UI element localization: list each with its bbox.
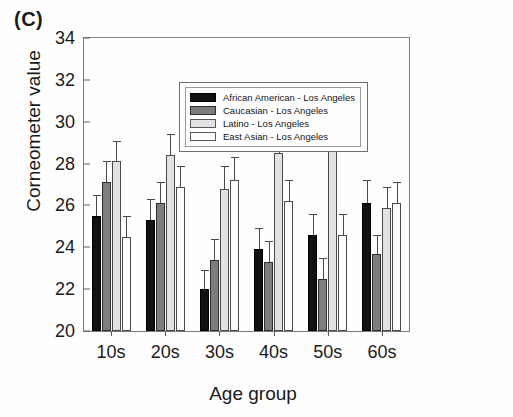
error-bar-cap bbox=[309, 214, 317, 215]
legend-item: Caucasian - Los Angeles bbox=[190, 104, 355, 117]
legend-swatch bbox=[190, 132, 216, 141]
error-bar bbox=[343, 214, 344, 235]
error-bar-cap bbox=[93, 195, 101, 196]
error-bar-cap bbox=[201, 270, 209, 271]
error-bar bbox=[214, 239, 215, 260]
error-bar bbox=[160, 182, 161, 203]
bar bbox=[92, 216, 101, 331]
error-bar-cap bbox=[363, 180, 371, 181]
x-tick-label: 20s bbox=[151, 342, 180, 363]
legend-swatch bbox=[190, 93, 216, 102]
bar bbox=[372, 254, 381, 331]
bar bbox=[264, 262, 273, 331]
error-bar bbox=[126, 216, 127, 237]
bar bbox=[176, 187, 185, 331]
error-bar bbox=[150, 199, 151, 220]
plot-area: 2022242628303234 10s20s30s40s50s60s Afri… bbox=[83, 37, 410, 332]
x-tick-label: 10s bbox=[97, 342, 126, 363]
error-bar-cap bbox=[113, 141, 121, 142]
error-bar-cap bbox=[167, 134, 175, 135]
x-tick-mark bbox=[382, 331, 383, 336]
legend-swatch bbox=[190, 106, 216, 115]
legend-item: East Asian - Los Angeles bbox=[190, 130, 355, 143]
bar bbox=[382, 208, 391, 331]
y-tick-mark bbox=[84, 79, 90, 80]
y-tick-label: 30 bbox=[55, 111, 84, 132]
bar bbox=[102, 182, 111, 331]
bar bbox=[274, 153, 283, 331]
bar bbox=[392, 203, 401, 331]
y-tick-label: 20 bbox=[55, 321, 84, 342]
error-bar-cap bbox=[211, 239, 219, 240]
bar bbox=[254, 249, 263, 331]
bar bbox=[220, 189, 229, 331]
figure-panel: (C) Corneometer value 2022242628303234 1… bbox=[0, 0, 513, 417]
legend-item: African American - Los Angeles bbox=[190, 91, 355, 104]
bar bbox=[338, 235, 347, 331]
error-bar-cap bbox=[221, 166, 229, 167]
error-bar bbox=[259, 228, 260, 249]
error-bar-cap bbox=[285, 180, 293, 181]
x-tick-mark bbox=[111, 331, 112, 336]
error-bar-cap bbox=[265, 241, 273, 242]
error-bar bbox=[106, 161, 107, 182]
error-bar bbox=[234, 157, 235, 180]
legend-label: African American - Los Angeles bbox=[223, 93, 355, 103]
y-tick-mark bbox=[84, 331, 90, 332]
y-tick-mark bbox=[84, 38, 90, 39]
bar bbox=[284, 201, 293, 331]
error-bar-cap bbox=[147, 199, 155, 200]
bar bbox=[362, 203, 371, 331]
error-bar bbox=[204, 270, 205, 289]
y-tick-mark bbox=[84, 163, 90, 164]
x-axis-label: Age group bbox=[83, 383, 423, 405]
x-tick-mark bbox=[165, 331, 166, 336]
error-bar bbox=[377, 235, 378, 254]
bar-group bbox=[92, 38, 131, 331]
error-bar-cap bbox=[157, 182, 165, 183]
y-tick-label: 24 bbox=[55, 237, 84, 258]
bar bbox=[210, 260, 219, 331]
error-bar bbox=[367, 180, 368, 203]
bar bbox=[318, 279, 327, 331]
error-bar bbox=[96, 195, 97, 216]
error-bar-cap bbox=[319, 258, 327, 259]
error-bar-cap bbox=[393, 182, 401, 183]
y-tick-label: 32 bbox=[55, 69, 84, 90]
bar bbox=[122, 237, 131, 331]
y-tick-label: 34 bbox=[55, 28, 84, 49]
legend-swatch bbox=[190, 119, 216, 128]
x-tick-mark bbox=[274, 331, 275, 336]
bar bbox=[156, 203, 165, 331]
error-bar-cap bbox=[231, 157, 239, 158]
y-axis-label: Corneometer value bbox=[23, 11, 45, 251]
error-bar bbox=[269, 241, 270, 262]
x-tick-mark bbox=[219, 331, 220, 336]
bar bbox=[230, 180, 239, 331]
bar-group bbox=[362, 38, 401, 331]
legend-label: East Asian - Los Angeles bbox=[223, 132, 328, 142]
y-tick-mark bbox=[84, 289, 90, 290]
y-tick-label: 22 bbox=[55, 279, 84, 300]
error-bar bbox=[116, 141, 117, 162]
error-bar bbox=[180, 166, 181, 187]
bar bbox=[308, 235, 317, 331]
error-bar bbox=[323, 258, 324, 279]
error-bar-cap bbox=[177, 166, 185, 167]
y-tick-label: 28 bbox=[55, 153, 84, 174]
bar bbox=[146, 220, 155, 331]
error-bar bbox=[224, 166, 225, 189]
x-tick-label: 30s bbox=[205, 342, 234, 363]
x-tick-label: 40s bbox=[259, 342, 288, 363]
error-bar bbox=[289, 180, 290, 201]
y-tick-label: 26 bbox=[55, 195, 84, 216]
bar bbox=[112, 161, 121, 331]
y-tick-mark bbox=[84, 205, 90, 206]
error-bar-cap bbox=[373, 235, 381, 236]
error-bar bbox=[170, 134, 171, 155]
error-bar-cap bbox=[255, 228, 263, 229]
legend-label: Latino - Los Angeles bbox=[223, 119, 309, 129]
error-bar bbox=[313, 214, 314, 235]
legend-label: Caucasian - Los Angeles bbox=[223, 106, 328, 116]
x-tick-mark bbox=[328, 331, 329, 336]
